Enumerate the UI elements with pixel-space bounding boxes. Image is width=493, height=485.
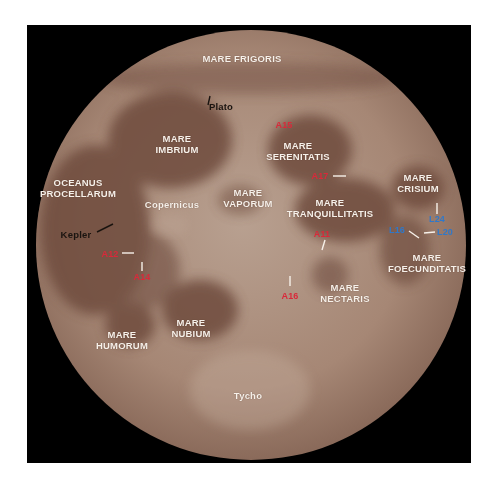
site-a16: A16 xyxy=(281,291,298,302)
label-plato: Plato xyxy=(209,101,233,112)
site-l24: L24 xyxy=(429,214,445,225)
label-mare-imbrium: MARE IMBRIUM xyxy=(155,133,198,155)
label-mare-nectaris: MARE NECTARIS xyxy=(320,282,369,304)
moon-disc xyxy=(0,0,493,485)
site-l16: L16 xyxy=(389,225,405,236)
site-a15: A15 xyxy=(275,120,292,131)
label-copernicus: Copernicus xyxy=(145,199,199,210)
site-a14: A14 xyxy=(133,272,150,283)
label-mare-serenitatis: MARE SERENITATIS xyxy=(266,140,330,162)
site-a11: A11 xyxy=(314,229,331,240)
label-oceanus-procellarum: OCEANUS PROCELLARUM xyxy=(40,177,116,199)
label-mare-tranquillitatis: MARE TRANQUILLITATIS xyxy=(287,197,374,219)
label-tycho: Tycho xyxy=(234,390,262,401)
label-mare-humorum: MARE HUMORUM xyxy=(96,329,148,351)
label-mare-nubium: MARE NUBIUM xyxy=(171,317,210,339)
label-mare-frigoris: MARE FRIGORIS xyxy=(202,53,281,64)
label-mare-foecunditatis: MARE FOECUNDITATIS xyxy=(388,252,466,274)
site-l20: L20 xyxy=(437,227,453,238)
label-mare-crisium: MARE CRISIUM xyxy=(397,172,439,194)
label-kepler: Kepler xyxy=(61,229,92,240)
site-a17: A17 xyxy=(311,171,328,182)
label-mare-vaporum: MARE VAPORUM xyxy=(223,187,272,209)
site-a12: A12 xyxy=(101,249,118,260)
